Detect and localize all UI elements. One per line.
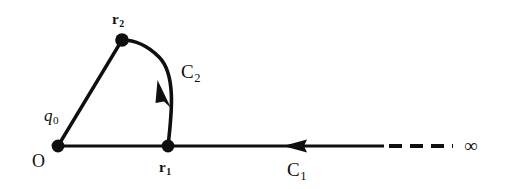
segment-origin-to-r2 <box>58 40 122 146</box>
label-r2: r2 <box>112 12 124 29</box>
label-charge-q0: q0 <box>44 107 59 126</box>
label-r1: r1 <box>159 160 171 177</box>
label-curve-c2: C2 <box>181 62 200 84</box>
label-q0-subscript: 0 <box>53 114 59 126</box>
node-dot-r2 <box>115 33 129 47</box>
label-r2-subscript: 2 <box>119 18 124 29</box>
label-r1-base: r <box>159 159 166 175</box>
label-origin: O <box>32 152 45 170</box>
label-infinity: ∞ <box>464 136 478 155</box>
label-q0-base: q <box>44 106 53 125</box>
label-r1-subscript: 1 <box>166 166 171 177</box>
physics-path-diagram: r2 r1 q0 C2 C1 O ∞ <box>0 0 507 189</box>
label-c1-subscript: 1 <box>300 169 307 183</box>
label-curve-c1: C1 <box>287 160 306 182</box>
label-c2-base: C <box>181 61 194 82</box>
curve-path-c2 <box>122 40 171 146</box>
arrowhead-c1-icon <box>283 140 307 153</box>
diagram-canvas <box>0 0 507 189</box>
label-r2-base: r <box>112 11 119 27</box>
label-c1-base: C <box>287 159 300 180</box>
node-dot-origin <box>52 140 65 153</box>
node-dot-r1 <box>162 140 175 153</box>
label-c2-subscript: 2 <box>194 71 201 85</box>
